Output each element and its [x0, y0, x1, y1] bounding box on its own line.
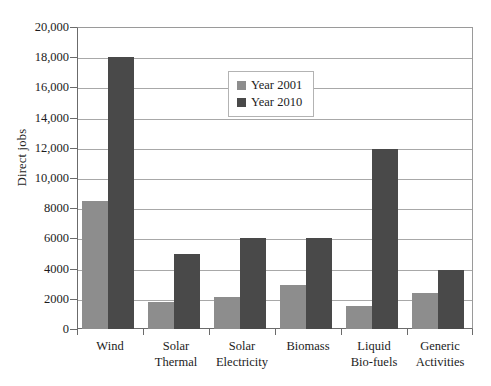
y-axis-tick-label: 10,000	[7, 171, 69, 186]
x-axis-label-line: Wind	[77, 338, 143, 354]
x-axis-label-line: Electricity	[209, 354, 275, 370]
x-axis-label-line: Biomass	[275, 338, 341, 354]
y-axis-tick-label: 20,000	[7, 20, 69, 35]
y-axis-tick-label: 0	[7, 322, 69, 337]
y-axis-tick	[70, 299, 77, 300]
bar	[346, 306, 372, 329]
x-axis-category-label: Biomass	[275, 338, 341, 354]
x-axis-label-line: Liquid	[341, 338, 407, 354]
bar	[306, 238, 332, 329]
bar	[108, 57, 134, 329]
y-axis-tick	[70, 178, 77, 179]
bar	[240, 238, 266, 329]
y-axis-tick	[70, 57, 77, 58]
bar	[280, 285, 306, 329]
bar-group	[77, 27, 143, 329]
legend-label: Year 2010	[251, 94, 302, 111]
bar	[412, 293, 438, 329]
x-axis-label-line: Thermal	[143, 354, 209, 370]
bar	[82, 201, 108, 329]
bar-chart: Direct jobs 0200040006000800010,00012,00…	[0, 0, 491, 386]
x-axis-tick	[341, 329, 342, 335]
y-axis-tick	[70, 208, 77, 209]
x-axis-label-line: Activities	[407, 354, 473, 370]
bar	[148, 302, 174, 329]
y-axis-tick	[70, 148, 77, 149]
y-axis-tick-label: 4000	[7, 261, 69, 276]
legend-label: Year 2001	[251, 77, 302, 94]
x-axis-category-label: LiquidBio-fuels	[341, 338, 407, 370]
x-axis-tick	[407, 329, 408, 335]
x-axis-labels: WindSolarThermalSolarElectricityBiomassL…	[77, 338, 473, 386]
x-axis-category-label: Wind	[77, 338, 143, 354]
bar-group	[407, 27, 473, 329]
y-axis-tick	[70, 238, 77, 239]
legend: Year 2001Year 2010	[228, 71, 314, 117]
legend-item: Year 2010	[237, 94, 302, 111]
x-axis-category-label: SolarElectricity	[209, 338, 275, 370]
y-axis-tick-label: 14,000	[7, 110, 69, 125]
x-axis-label-line: Solar	[143, 338, 209, 354]
y-axis-labels: 0200040006000800010,00012,00014,00016,00…	[0, 0, 69, 386]
x-axis-label-line: Solar	[209, 338, 275, 354]
y-axis-tick	[70, 118, 77, 119]
y-axis-tick	[70, 87, 77, 88]
y-axis-tick-label: 16,000	[7, 80, 69, 95]
y-axis-tick-label: 8000	[7, 201, 69, 216]
y-axis-tick	[70, 269, 77, 270]
y-axis-tick	[70, 27, 77, 28]
x-axis-label-line: Bio-fuels	[341, 354, 407, 370]
x-axis-category-label: SolarThermal	[143, 338, 209, 370]
y-axis-tick	[70, 329, 77, 330]
bar	[372, 149, 398, 329]
legend-swatch-icon	[237, 81, 246, 90]
bar	[174, 254, 200, 330]
y-axis-tick-label: 2000	[7, 291, 69, 306]
bar-group	[143, 27, 209, 329]
y-axis-tick-label: 6000	[7, 231, 69, 246]
x-axis-tick	[472, 329, 473, 335]
legend-swatch-icon	[237, 98, 246, 107]
x-axis-tick	[209, 329, 210, 335]
bar	[214, 297, 240, 329]
x-axis-tick	[275, 329, 276, 335]
legend-item: Year 2001	[237, 77, 302, 94]
y-axis-tick-label: 12,000	[7, 140, 69, 155]
x-axis-tick	[77, 329, 78, 335]
bar	[438, 270, 464, 329]
x-axis-label-line: Generic	[407, 338, 473, 354]
y-axis-tick-label: 18,000	[7, 50, 69, 65]
bar-group	[341, 27, 407, 329]
x-axis-ticks	[77, 329, 473, 337]
x-axis-tick	[143, 329, 144, 335]
x-axis-category-label: GenericActivities	[407, 338, 473, 370]
